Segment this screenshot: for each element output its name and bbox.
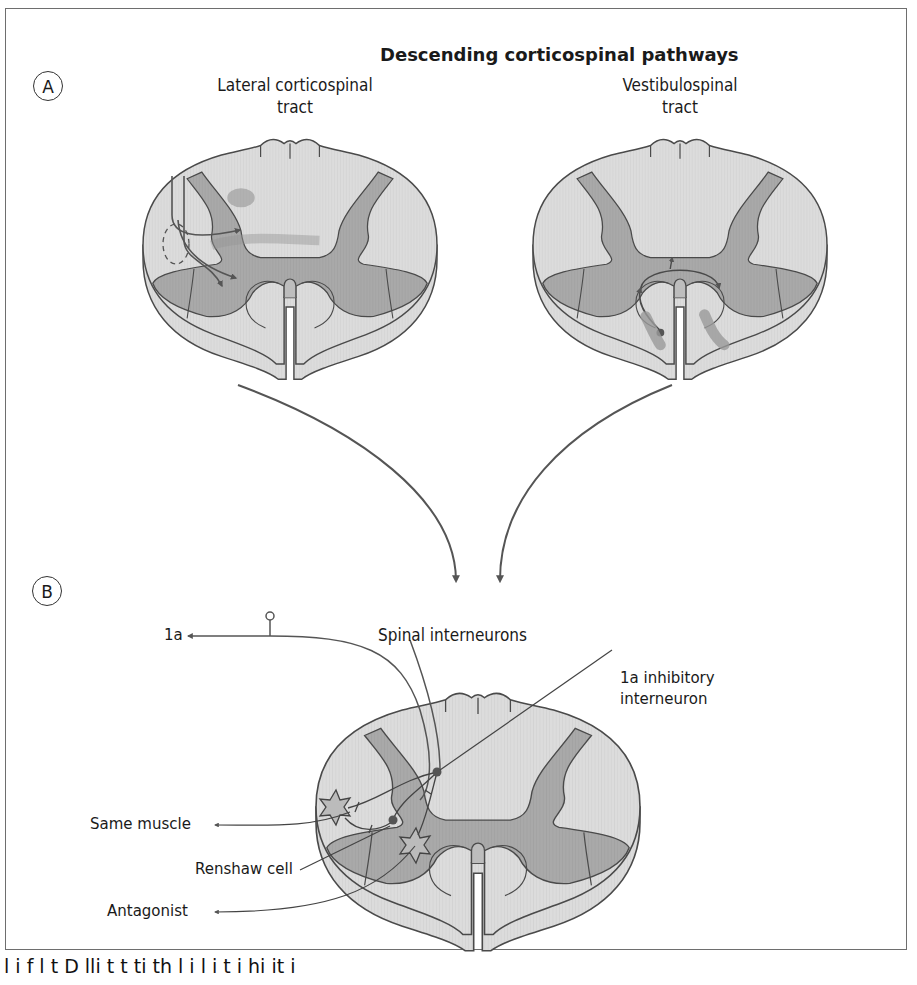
figure-title: Descending corticospinal pathways [380, 44, 739, 65]
label-line: tract [180, 96, 410, 118]
label-lateral-corticospinal: Lateral corticospinal tract [180, 74, 410, 118]
label-line: Vestibulospinal [595, 74, 765, 96]
spinal-cord-illustration [0, 0, 917, 985]
inhibitory-interneuron-cell [433, 768, 442, 777]
label-same-muscle: Same muscle [90, 815, 191, 833]
label-line: 1a inhibitory [620, 668, 715, 689]
label-line: tract [595, 96, 765, 118]
arrow-lateral-to-interneurons [238, 385, 456, 580]
label-1a: 1a [164, 626, 183, 644]
label-line: Lateral corticospinal [180, 74, 410, 96]
panel-b-marker: B [32, 576, 62, 606]
cord-lateral-corticospinal [143, 140, 437, 380]
caption-fragment: l i f l t D lli t t ti th l i l i t i hi… [4, 955, 296, 977]
renshaw-cell-body [389, 816, 398, 825]
arrow-vestibular-to-interneurons [500, 385, 672, 580]
cord-spinal-interneurons [316, 693, 640, 950]
label-renshaw-cell: Renshaw cell [195, 860, 293, 878]
panel-a-marker: A [33, 71, 63, 101]
heading-spinal-interneurons: Spinal interneurons [378, 624, 527, 646]
cord-vestibulospinal [533, 140, 827, 380]
label-1a-inhibitory-interneuron: 1a inhibitory interneuron [620, 668, 715, 710]
label-antagonist: Antagonist [107, 902, 188, 920]
label-line: interneuron [620, 689, 715, 710]
label-vestibulospinal: Vestibulospinal tract [595, 74, 765, 118]
